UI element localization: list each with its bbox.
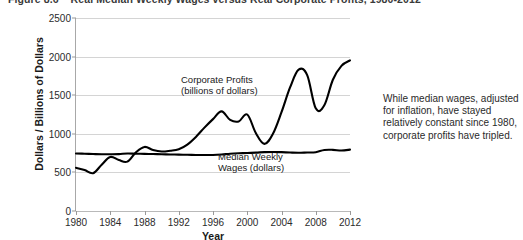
x-tick-label-1980: 1980 bbox=[65, 217, 87, 228]
x-tick-mark-2008 bbox=[316, 211, 317, 215]
x-tick-mark-1980 bbox=[76, 211, 77, 215]
annotation-corporate-profits-line1: Corporate Profits bbox=[181, 74, 258, 85]
y-tick-label-0: 0 bbox=[65, 206, 71, 217]
figure-caption: While median wages, adjusted for inflati… bbox=[383, 93, 523, 142]
y-tick-label-2000: 2000 bbox=[49, 51, 71, 62]
annotation-corporate-profits-line2: (billions of dollars) bbox=[181, 85, 258, 96]
x-tick-mark-1984 bbox=[110, 211, 111, 215]
x-tick-label-2004: 2004 bbox=[270, 217, 292, 228]
figure-number: Figure 8.6 bbox=[8, 0, 59, 5]
y-tick-label-2500: 2500 bbox=[49, 13, 71, 24]
x-tick-label-1984: 1984 bbox=[99, 217, 121, 228]
x-tick-label-1992: 1992 bbox=[168, 217, 190, 228]
y-tick-label-1500: 1500 bbox=[49, 90, 71, 101]
x-tick-label-1996: 1996 bbox=[202, 217, 224, 228]
x-tick-label-2008: 2008 bbox=[305, 217, 327, 228]
annotation-median-weekly-wages-line2: Wages (dollars) bbox=[218, 162, 284, 173]
x-tick-label-1988: 1988 bbox=[133, 217, 155, 228]
series-line-median-weekly-wages bbox=[76, 150, 350, 155]
x-axis-title: Year bbox=[76, 230, 350, 240]
plot-area: 05001000150020002500 1980198419881992199… bbox=[76, 18, 350, 211]
y-tick-label-1000: 1000 bbox=[49, 128, 71, 139]
x-tick-mark-2012 bbox=[350, 211, 351, 215]
y-tick-label-500: 500 bbox=[54, 167, 71, 178]
figure-title-text: Real Median Weekly Wages versus Real Cor… bbox=[71, 0, 421, 5]
x-tick-mark-2000 bbox=[247, 211, 248, 215]
figure-title: Figure 8.6Real Median Weekly Wages versu… bbox=[8, 0, 523, 5]
annotation-median-weekly-wages: Median Weekly Wages (dollars) bbox=[218, 151, 284, 173]
x-tick-label-2000: 2000 bbox=[236, 217, 258, 228]
x-tick-mark-1992 bbox=[179, 211, 180, 215]
chart-region: Dollars / Billions of Dollars 0500100015… bbox=[0, 12, 372, 234]
x-tick-mark-1996 bbox=[213, 211, 214, 215]
annotation-corporate-profits: Corporate Profits (billions of dollars) bbox=[181, 74, 258, 96]
annotation-median-weekly-wages-line1: Median Weekly bbox=[218, 151, 284, 162]
y-axis-title: Dollars / Billions of Dollars bbox=[33, 29, 45, 179]
x-tick-mark-1988 bbox=[145, 211, 146, 215]
series-plot bbox=[76, 18, 350, 211]
x-tick-label-2012: 2012 bbox=[339, 217, 361, 228]
x-tick-mark-2004 bbox=[282, 211, 283, 215]
